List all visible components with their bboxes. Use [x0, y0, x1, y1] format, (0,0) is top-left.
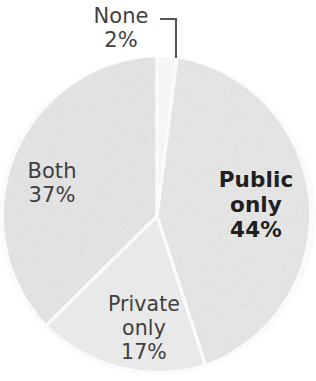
- pie-label-private-only-value: 17%: [94, 341, 194, 365]
- pie-label-private-only-text-line1: Private: [94, 293, 194, 317]
- pie-label-none: None 2%: [78, 4, 164, 53]
- pie-label-both-text: Both: [8, 159, 96, 183]
- pie-chart-figure: None 2% Public only 44% Private only 17%…: [0, 0, 316, 381]
- pie-label-none-value: 2%: [78, 28, 164, 52]
- pie-label-both-value: 37%: [8, 183, 96, 207]
- pie-label-both: Both 37%: [8, 159, 96, 208]
- pie-label-private-only: Private only 17%: [94, 293, 194, 364]
- pie-label-none-text: None: [78, 4, 164, 28]
- pie-label-public-only-value: 44%: [206, 218, 306, 243]
- pie-label-public-only-text-line2: only: [206, 193, 306, 218]
- pie-label-public-only: Public only 44%: [206, 168, 306, 243]
- pie-label-public-only-text-line1: Public: [206, 168, 306, 193]
- pie-label-private-only-text-line2: only: [94, 317, 194, 341]
